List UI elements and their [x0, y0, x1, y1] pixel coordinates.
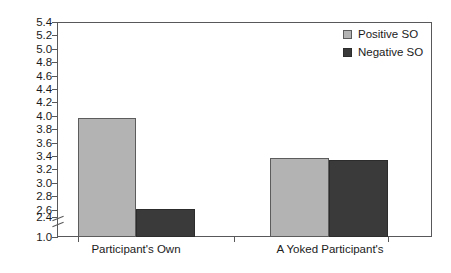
y-tick-label: 3.8 [4, 124, 52, 135]
y-tick-label: 5.0 [4, 44, 52, 55]
y-tick-label: 4.2 [4, 97, 52, 108]
y-tick-label: 4.0 [4, 111, 52, 122]
x-category-label-yoked-participants: A Yoked Participant's [258, 243, 402, 255]
y-tick-label: 2.8 [4, 191, 52, 202]
y-tick-mark [52, 169, 58, 170]
bar-yoked-participants-negative-so[interactable] [329, 160, 388, 237]
bar-participants-own-negative-so[interactable] [136, 209, 195, 237]
y-tick-label: 3.2 [4, 164, 52, 175]
legend: Positive SO Negative SO [343, 26, 429, 62]
y-tick-mark [52, 62, 58, 63]
y-tick-mark [52, 143, 58, 144]
axis-break-stub [57, 225, 58, 235]
x-tick-mark [388, 237, 389, 242]
y-tick-label: 3.0 [4, 178, 52, 189]
y-tick-label: 3.6 [4, 138, 52, 149]
y-tick-mark [52, 237, 58, 238]
y-tick-label: 2.4 [4, 212, 52, 223]
legend-swatch-positive-so [343, 30, 352, 39]
y-tick-mark [52, 183, 58, 184]
y-tick-label: 3.4 [4, 151, 52, 162]
y-tick-mark [52, 129, 58, 130]
y-tick-mark [52, 35, 58, 36]
bar-chart-figure: 5.4 5.2 5.0 4.8 4.6 4.4 4.2 4.0 3.8 3.6 … [0, 0, 451, 273]
y-tick-label: 4.8 [4, 57, 52, 68]
axis-break-icon [51, 213, 65, 231]
y-tick-mark [52, 89, 58, 90]
bar-yoked-participants-positive-so[interactable] [270, 158, 329, 237]
y-tick-label: 5.4 [4, 17, 52, 28]
legend-label-positive-so: Positive SO [358, 29, 418, 40]
x-category-label-participants-own: Participant's Own [66, 243, 206, 255]
legend-swatch-negative-so [343, 48, 352, 57]
x-tick-mark [234, 237, 235, 242]
legend-item-negative-so[interactable]: Negative SO [343, 44, 429, 60]
axis-break-slash [52, 222, 64, 227]
legend-item-positive-so[interactable]: Positive SO [343, 26, 429, 42]
y-tick-mark [52, 76, 58, 77]
bar-participants-own-positive-so[interactable] [78, 118, 136, 237]
y-tick-label: 4.6 [4, 71, 52, 82]
y-tick-mark [52, 116, 58, 117]
y-tick-label: 5.2 [4, 30, 52, 41]
y-axis-tick-labels: 5.4 5.2 5.0 4.8 4.6 4.4 4.2 4.0 3.8 3.6 … [0, 0, 52, 273]
x-tick-mark [78, 237, 79, 242]
legend-label-negative-so: Negative SO [358, 47, 423, 58]
y-tick-mark [52, 156, 58, 157]
y-tick-mark [52, 196, 58, 197]
y-tick-label: 4.4 [4, 84, 52, 95]
axis-break-slash [52, 216, 64, 221]
y-tick-mark [52, 102, 58, 103]
y-tick-mark [52, 22, 58, 23]
y-tick-mark [52, 49, 58, 50]
y-tick-label: 1.0 [4, 232, 52, 243]
